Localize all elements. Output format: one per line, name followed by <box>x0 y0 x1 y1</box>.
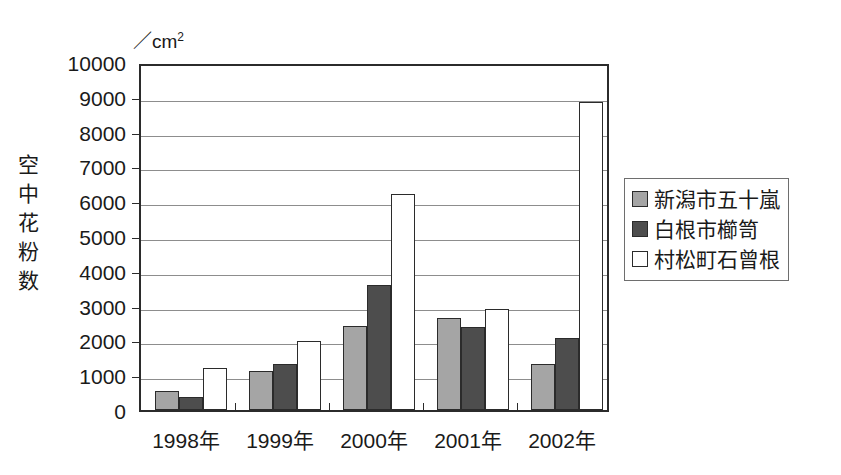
chart-screenshot: 空 中 花 粉 数 ／cm2 0100020003000400050006000… <box>0 0 841 475</box>
bar <box>297 341 321 410</box>
y-axis-tick <box>132 168 139 169</box>
bar <box>555 338 579 410</box>
y-axis-tick-label: 6000 <box>79 191 126 215</box>
bar <box>155 391 179 410</box>
y-axis-tick-label: 10000 <box>68 52 126 76</box>
bar <box>367 285 391 410</box>
unit-label: ／cm2 <box>133 26 184 53</box>
y-axis-tick <box>132 342 139 343</box>
legend-item: 新潟市五十嵐 <box>632 184 780 214</box>
x-axis-tick-label: 1999年 <box>246 424 314 454</box>
legend-item-label: 白根市櫛笥 <box>654 219 759 240</box>
legend: 新潟市五十嵐白根市櫛笥村松町石曾根 <box>624 178 789 281</box>
legend-item: 白根市櫛笥 <box>632 214 780 244</box>
legend-swatch-icon <box>632 191 648 207</box>
unit-label-text: ／cm <box>133 31 177 52</box>
y-axis-tick-label: 4000 <box>79 261 126 285</box>
legend-swatch-icon <box>632 221 648 237</box>
x-axis-tick-label: 1998年 <box>152 424 220 454</box>
y-axis-tick <box>132 99 139 100</box>
bar <box>391 194 415 410</box>
x-axis-tick <box>235 403 236 411</box>
bar <box>461 327 485 411</box>
bar <box>343 326 367 410</box>
legend-item-label: 村松町石曾根 <box>654 249 780 270</box>
legend-swatch-icon <box>632 251 648 267</box>
x-axis-tick <box>423 403 424 411</box>
bar <box>179 397 203 410</box>
bar <box>273 364 297 410</box>
bar <box>485 309 509 410</box>
x-axis-tick-label: 2001年 <box>434 424 502 454</box>
y-axis-tick <box>132 238 139 239</box>
y-axis-tick-label: 9000 <box>79 87 126 111</box>
y-axis-tick-label: 3000 <box>79 296 126 320</box>
y-axis-tick-label: 7000 <box>79 156 126 180</box>
y-axis-tick-label: 0 <box>114 400 126 424</box>
y-axis-tick <box>132 273 139 274</box>
y-axis-tick-label: 5000 <box>79 226 126 250</box>
y-axis-tick-label: 1000 <box>79 365 126 389</box>
legend-item: 村松町石曾根 <box>632 244 780 274</box>
unit-label-exponent: 2 <box>177 30 184 44</box>
plot-area <box>139 64 609 412</box>
y-axis-tick <box>132 134 139 135</box>
y-axis-tick <box>132 308 139 309</box>
x-axis-tick-label: 2002年 <box>528 424 596 454</box>
y-axis-labels: 0100020003000400050006000700080009000100… <box>40 64 132 412</box>
y-axis-tick-label: 2000 <box>79 330 126 354</box>
bar <box>249 371 273 410</box>
x-axis-labels: 1998年1999年2000年2001年2002年 <box>139 424 609 464</box>
y-axis-tick <box>132 377 139 378</box>
bar <box>579 102 603 410</box>
y-axis-tick-label: 8000 <box>79 122 126 146</box>
x-axis-tick <box>517 403 518 411</box>
bars-layer <box>141 66 607 410</box>
legend-item-label: 新潟市五十嵐 <box>654 189 780 210</box>
y-axis-tick <box>132 203 139 204</box>
bar <box>203 368 227 410</box>
bar <box>437 318 461 410</box>
x-axis-tick <box>329 403 330 411</box>
bar <box>531 364 555 410</box>
x-axis-tick-label: 2000年 <box>340 424 408 454</box>
